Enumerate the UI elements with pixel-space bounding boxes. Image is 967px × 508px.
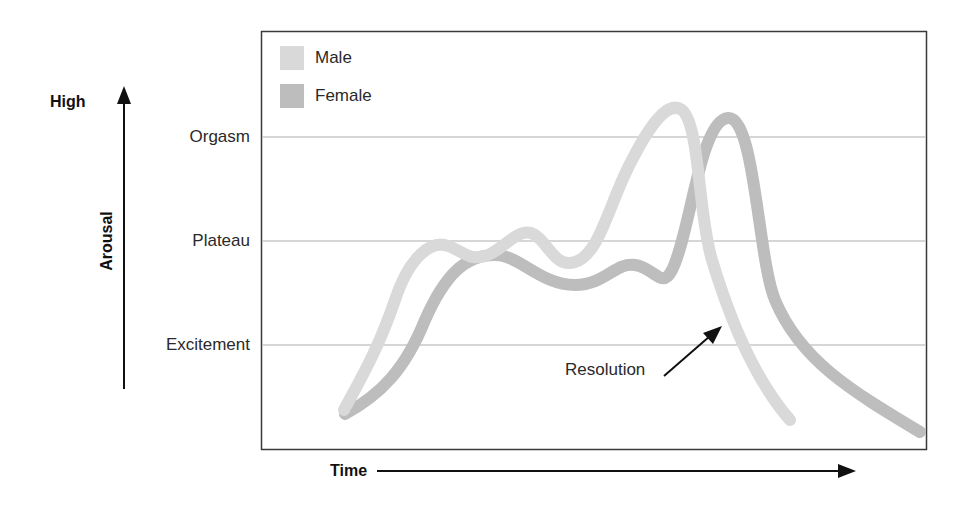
x-axis-arrowhead-icon xyxy=(838,464,856,478)
y-axis-arrowhead-icon xyxy=(117,86,131,104)
legend-label-female: Female xyxy=(315,86,372,106)
chart-canvas xyxy=(0,0,967,508)
legend-swatch-female xyxy=(280,84,304,108)
tick-label-plateau: Plateau xyxy=(110,231,250,251)
resolution-arrow-line xyxy=(664,336,710,376)
tick-label-excitement: Excitement xyxy=(110,335,250,355)
y-axis-high-label: High xyxy=(50,93,86,111)
legend-item-female: Female xyxy=(280,84,372,108)
tick-label-orgasm: Orgasm xyxy=(110,127,250,147)
resolution-arrowhead-icon xyxy=(703,326,722,344)
legend-label-male: Male xyxy=(315,48,352,68)
y-axis-title: Arousal xyxy=(98,206,116,276)
legend-swatch-male xyxy=(280,46,304,70)
legend-item-male: Male xyxy=(280,46,352,70)
x-axis-title: Time xyxy=(330,462,367,480)
annotation-resolution: Resolution xyxy=(565,360,645,380)
